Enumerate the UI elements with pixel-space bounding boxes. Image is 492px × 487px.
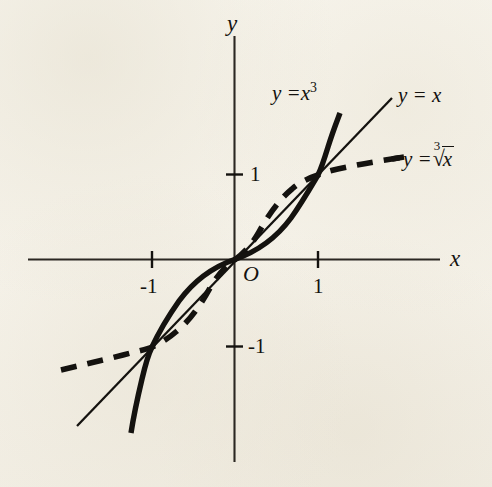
curve-label-cubic: y =x3	[272, 83, 317, 104]
x-axis-label: x	[450, 247, 460, 270]
curve-label-cube-root: y =3√x	[403, 148, 454, 170]
curve-label-identity: y = x	[398, 85, 441, 106]
y-tick-label-negative-one: -1	[248, 336, 266, 357]
radical-degree: 3	[434, 139, 441, 152]
radical-argument: x	[442, 146, 454, 171]
curve-label-cube-root-lhs: y =	[403, 147, 432, 171]
x-tick-label-positive-one: 1	[313, 276, 324, 297]
curve-label-cubic-exponent: 3	[310, 80, 317, 95]
plot-canvas	[0, 0, 492, 487]
curve-label-cubic-base: x	[301, 81, 310, 105]
x-tick-label-negative-one: -1	[140, 276, 158, 297]
curve-label-cubic-lhs: y =	[272, 81, 301, 105]
origin-label: O	[243, 263, 259, 285]
graph-figure: y x O -1 1 1 -1 y =x3 y = x y =3√x	[0, 0, 492, 487]
y-tick-label-positive-one: 1	[250, 164, 261, 185]
y-axis-label: y	[227, 12, 237, 35]
radical-glyph-icon: 3√x	[432, 148, 454, 170]
axes-group	[28, 36, 440, 462]
